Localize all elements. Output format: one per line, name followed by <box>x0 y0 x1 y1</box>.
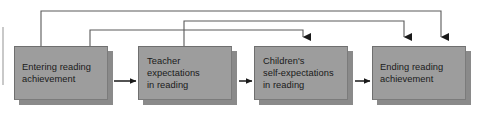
node-teacher-expectations-in-reading[interactable]: Teacher expectations in reading <box>138 46 232 100</box>
feedback-path-teacher-to-ending <box>184 21 404 47</box>
node-label: Entering reading achievement <box>15 61 96 86</box>
node-label: Teacher expectations in reading <box>139 55 205 92</box>
feedback-path-entering-to-children <box>90 30 303 47</box>
node-ending-reading-achievement[interactable]: Ending reading achievement <box>372 46 466 100</box>
diagram-canvas: Entering reading achievement Teacher exp… <box>0 0 485 113</box>
node-entering-reading-achievement[interactable]: Entering reading achievement <box>14 46 108 100</box>
feedback-path-entering-to-ending <box>41 11 441 47</box>
node-label: Children's self-expectations in reading <box>255 55 339 92</box>
node-childrens-self-expectations-in-reading[interactable]: Children's self-expectations in reading <box>254 46 348 100</box>
page-margin-rule <box>2 27 4 85</box>
node-label: Ending reading achievement <box>373 61 448 86</box>
feedback-connectors <box>41 11 441 47</box>
